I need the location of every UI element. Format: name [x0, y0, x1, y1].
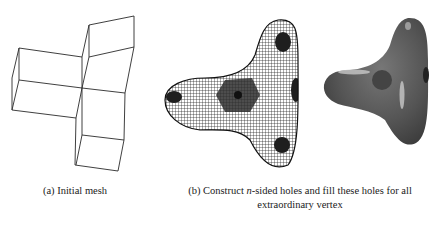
figure: (a) Initial mesh (b) Construct n-sided h… [0, 0, 440, 228]
caption-b: (b) Construct n-sided holes and fill the… [160, 184, 440, 212]
caption-b-line2: extraordinary vertex [257, 199, 342, 210]
filled-holes-mesh [160, 0, 310, 180]
patch-bottom [274, 137, 290, 153]
caption-b-suffix: -sided holes and fill these holes for al… [252, 185, 412, 196]
caption-b-prefix: (b) Construct [188, 185, 246, 196]
initial-mesh-wireframe [0, 0, 150, 180]
caption-a: (a) Initial mesh [0, 184, 150, 198]
patch-left [166, 91, 182, 103]
shaded-surface-render [290, 0, 440, 180]
center-patch [372, 70, 392, 90]
patch-top [275, 32, 291, 52]
